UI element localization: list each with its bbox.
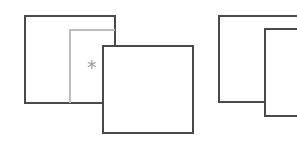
left-front-window: [102, 45, 194, 134]
asterisk-marker: *: [87, 58, 97, 77]
right-front-window: [264, 28, 297, 117]
